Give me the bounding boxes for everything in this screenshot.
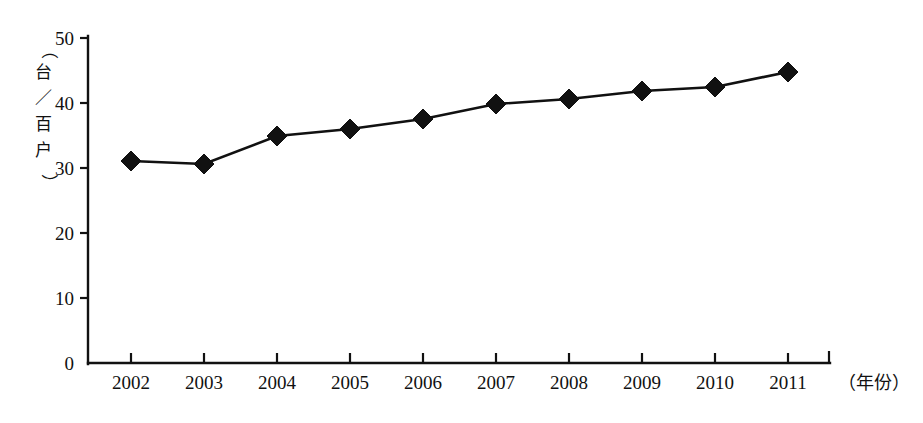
x-tick-label-2010: 2010	[696, 372, 734, 393]
x-tick-label-2002: 2002	[112, 372, 150, 393]
x-tick-label-2004: 2004	[258, 372, 297, 393]
y-axis-title-char-3: 百	[35, 114, 52, 134]
line-chart: 50 40 30 20 10 0 （ 台 ／ 百 户 ）	[0, 0, 923, 423]
chart-canvas: 50 40 30 20 10 0 （ 台 ／ 百 户 ）	[0, 0, 923, 423]
x-tick-label-2008: 2008	[550, 372, 588, 393]
y-axis-title-char-2: ／	[35, 88, 52, 108]
x-tick-label-2005: 2005	[331, 372, 369, 393]
x-tick-label-2003: 2003	[185, 372, 223, 393]
y-tick-label-40: 40	[55, 93, 74, 114]
y-axis-title-char-4: 户	[35, 140, 52, 160]
y-axis-title-char-1: 台	[35, 62, 52, 82]
x-axis-title: （年份）	[838, 372, 910, 393]
x-tick-label-2007: 2007	[477, 372, 515, 393]
chart-background	[0, 0, 923, 423]
x-tick-label-2011: 2011	[769, 372, 806, 393]
y-axis-title-char-0: （	[39, 42, 59, 59]
x-tick-label-2006: 2006	[404, 372, 442, 393]
y-tick-label-10: 10	[55, 288, 74, 309]
x-tick-label-2009: 2009	[623, 372, 661, 393]
y-axis-title-char-5: ）	[39, 174, 59, 191]
y-tick-label-20: 20	[55, 223, 74, 244]
y-tick-label-0: 0	[65, 353, 75, 374]
